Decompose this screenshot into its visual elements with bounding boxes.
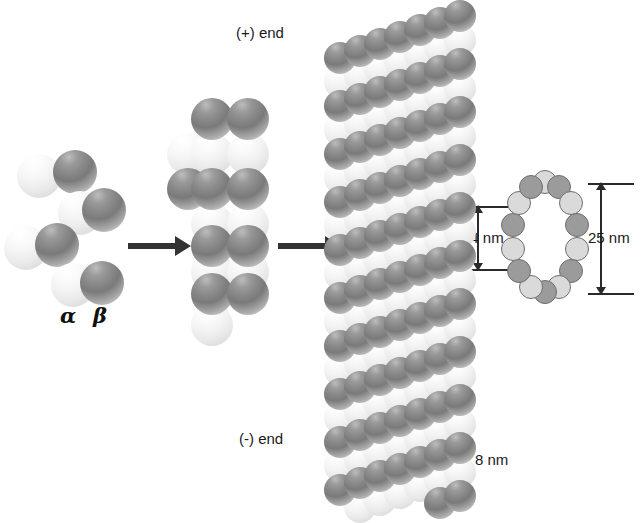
minus-end-label: (-) end xyxy=(239,430,283,447)
protofilament-monomer xyxy=(227,98,269,140)
microtubule-monomer xyxy=(444,480,476,512)
outer-diameter-tick-bottom xyxy=(588,293,634,295)
microtubule-monomer xyxy=(444,288,476,320)
microtubule-monomer xyxy=(444,432,476,464)
outer-diameter-label: 25 nm xyxy=(588,229,630,246)
microtubule-monomer xyxy=(444,144,476,176)
tubulin-beta-monomer xyxy=(82,188,126,232)
microtubule-monomer xyxy=(444,336,476,368)
inner-diameter-arrowhead-down xyxy=(473,263,483,271)
tubulin-beta-monomer xyxy=(80,261,124,305)
protofilament-monomer xyxy=(227,168,269,210)
cross-section-subunit xyxy=(565,237,589,261)
outer-diameter-tick-top xyxy=(588,183,634,185)
microtubule-monomer xyxy=(444,192,476,224)
microtubule-monomer xyxy=(444,96,476,128)
microtubule-monomer xyxy=(444,0,476,32)
outer-diameter-arrowhead-up xyxy=(596,182,606,190)
cross-section-subunit xyxy=(559,191,583,215)
beta-subunit-label: β xyxy=(93,303,107,328)
cross-section-subunit xyxy=(519,175,543,199)
microtubule-monomer xyxy=(444,240,476,272)
cross-section-subunit xyxy=(501,237,525,261)
arrow-protofilament-to-microtubule xyxy=(278,243,326,249)
tubulin-beta-monomer xyxy=(35,223,79,267)
protofilament-monomer xyxy=(227,273,269,315)
microtubule-monomer xyxy=(444,384,476,416)
arrow-dimer-to-protofilament xyxy=(128,243,176,249)
cross-section-subunit xyxy=(501,213,525,237)
protofilament-monomer xyxy=(227,225,269,267)
microtubule-monomer xyxy=(444,48,476,80)
subunit-repeat-label: 8 nm xyxy=(475,451,508,468)
tubulin-beta-monomer xyxy=(53,150,97,194)
plus-end-label: (+) end xyxy=(236,24,284,41)
outer-diameter-arrowhead-down xyxy=(596,287,606,295)
cross-section-subunit xyxy=(565,213,589,237)
